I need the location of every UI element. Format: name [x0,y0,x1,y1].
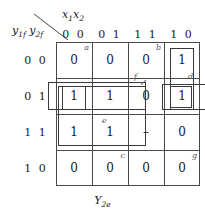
caption-sub: 2e [102,200,111,209]
kmap-cell-r2-c1[interactable]: 1 [92,114,128,150]
kmap-cell-r2-c3[interactable]: 0 [164,114,200,150]
cell-tag-b: b [156,43,161,52]
row-header-10: 1 0 [20,162,52,175]
cell-value-r3-c0: 0 [56,162,92,174]
column-header-00: 0 0 [56,28,92,41]
cell-value-r1-c0: 1 [56,90,92,102]
column-header-11: 1 1 [128,28,164,41]
cell-tag-a: a [84,43,89,52]
kmap-cell-r1-c1[interactable]: 1 [92,78,128,114]
column-variable-sub-2: 2 [79,14,84,23]
kmap-cell-r0-c0[interactable]: a 0 [56,42,92,78]
kmap-cell-r3-c2[interactable]: 0 [128,150,164,186]
kmap-grid: a 0 0 b 0 1 1 1 0 1 [56,42,200,186]
kmap-cell-r0-c1[interactable]: 0 [92,42,128,78]
group-tag-e: e [102,116,107,125]
cell-value-r2-c1: 1 [92,126,128,138]
column-header-01: 0 1 [92,28,128,41]
column-variable-label: x1x2 [62,8,84,23]
caption-base: Y [94,194,101,207]
cell-value-r3-c2: 0 [128,162,164,174]
group-tag-d: d [188,72,193,81]
cell-tag-g: g [192,151,197,160]
diagram-caption: Y2e [0,194,205,209]
row-header-11: 1 1 [20,126,52,139]
karnaugh-map-diagram: x1x2 y1f y2f 0 0 0 1 1 1 1 0 0 0 0 1 1 1… [0,0,205,214]
kmap-cell-r1-c2[interactable]: 0 [128,78,164,114]
cell-value-r0-c2: 0 [128,54,164,66]
cell-value-r3-c3: 0 [164,162,200,174]
kmap-cell-r2-c0[interactable]: 1 [56,114,92,150]
cell-value-r0-c0: 0 [56,54,92,66]
group-tag-f: f [134,72,137,81]
kmap-cell-r1-c3[interactable]: 1 [164,78,200,114]
row-variable-label: y1f y2f [12,24,43,39]
cell-value-r2-c0: 1 [56,126,92,138]
cell-value-r1-c2: 0 [128,90,164,102]
row-variable-sub-2: 2f [36,30,44,39]
row-variable-sub-1: 1f [18,30,26,39]
cell-value-r0-c3: 1 [164,54,200,66]
kmap-cell-r3-c0[interactable]: 0 [56,150,92,186]
cell-tag-c: c [121,151,125,160]
cell-value-r0-c1: 0 [92,54,128,66]
column-header-10: 1 0 [164,28,200,41]
cell-value-r1-c1: 1 [92,90,128,102]
row-header-00: 0 0 [20,54,52,67]
row-header-01: 0 1 [20,90,52,103]
kmap-cell-r1-c0[interactable]: 1 [56,78,92,114]
cell-value-r3-c1: 0 [92,162,128,174]
kmap-cell-r3-c3[interactable]: g 0 [164,150,200,186]
cell-value-r1-c3: 1 [164,90,200,102]
cell-value-r2-c3: 0 [164,126,200,138]
kmap-cell-r3-c1[interactable]: c 0 [92,150,128,186]
cell-value-r2-c2: – [128,126,164,138]
kmap-cell-r2-c2[interactable]: – [128,114,164,150]
kmap-cell-r0-c3[interactable]: 1 [164,42,200,78]
